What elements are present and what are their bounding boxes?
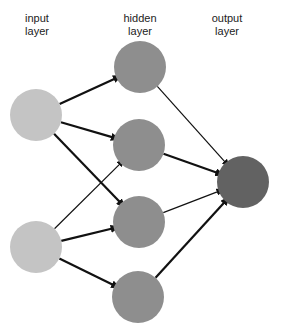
edge-hidden-4-to-output-1 bbox=[156, 197, 230, 278]
node-output-1 bbox=[217, 156, 269, 208]
node-input-1 bbox=[10, 89, 62, 141]
node-hidden-3 bbox=[113, 196, 165, 248]
nodes-group bbox=[10, 41, 269, 323]
node-hidden-1 bbox=[114, 41, 166, 93]
edges-group bbox=[54, 75, 230, 288]
node-hidden-2 bbox=[113, 119, 165, 171]
edge-input-1-to-hidden-1 bbox=[60, 75, 122, 104]
edge-hidden-2-to-output-1 bbox=[163, 154, 224, 176]
edge-input-2-to-hidden-4 bbox=[59, 258, 120, 288]
edge-hidden-3-to-output-1 bbox=[163, 189, 224, 212]
neural-network-diagram bbox=[0, 0, 282, 330]
edge-input-1-to-hidden-2 bbox=[61, 122, 120, 139]
node-hidden-4 bbox=[112, 271, 164, 323]
edge-input-2-to-hidden-3 bbox=[61, 227, 119, 241]
node-input-2 bbox=[10, 221, 62, 273]
